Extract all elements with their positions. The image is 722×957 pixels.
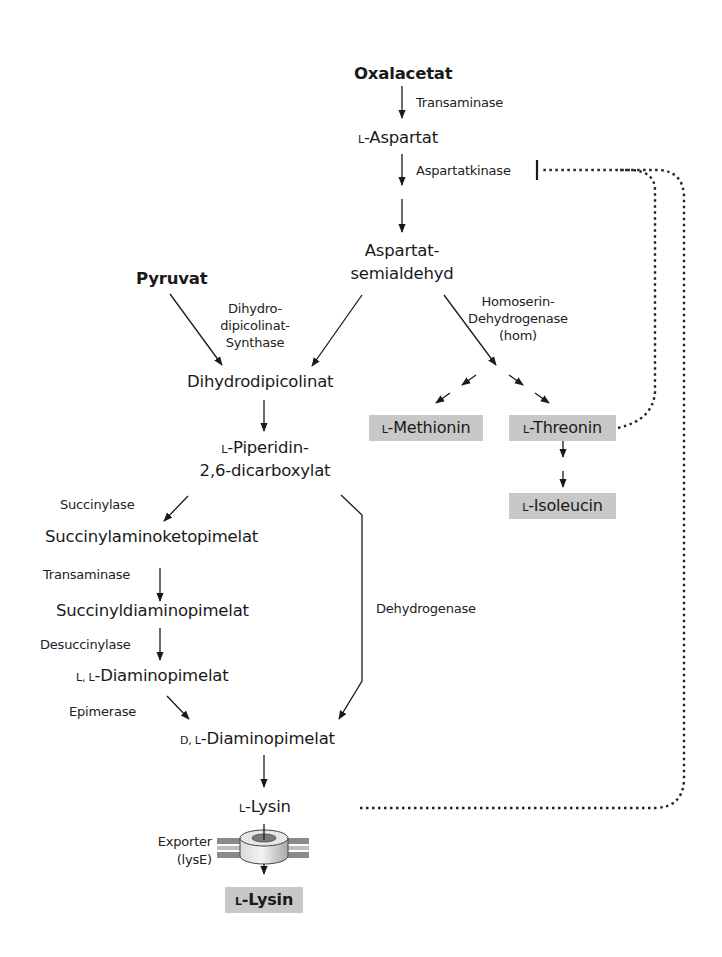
metabolite-l-aspartat: L-Aspartat	[358, 130, 438, 147]
arrow-succinylase	[164, 496, 188, 521]
metabolite-succinyldiaminopimelat: Succinyldiaminopimelat	[56, 603, 249, 620]
metabolite-ll-diaminopimelat: L, L-Diaminopimelat	[76, 668, 228, 685]
arrow-dhdps	[312, 295, 362, 366]
product-box-l-isoleucin: L-Isoleucin	[509, 493, 616, 519]
arrow-dehydrogenase	[339, 495, 362, 719]
metabolite-pyruvat: Pyruvat	[136, 271, 207, 288]
enzyme-dehydrogenase: Dehydrogenase	[376, 602, 476, 615]
enzyme-exporter-lyse: Exporter (lysE)	[140, 833, 212, 869]
metabolite-oxalacetat: Oxalacetat	[354, 66, 452, 83]
arrow-epimerase	[167, 696, 189, 719]
enzyme-dihydrodipicolinat-synthase: Dihydro- dipicolinat- Synthase	[218, 300, 292, 351]
arrow-methionin-1	[462, 375, 476, 385]
enzyme-desuccinylase: Desuccinylase	[40, 638, 131, 651]
enzyme-aspartatkinase: Aspartatkinase	[416, 164, 511, 177]
arrow-threonin-1	[509, 375, 523, 385]
arrow-threonin-2	[535, 393, 549, 403]
enzyme-homoserin-dehydrogenase: Homoserin- Dehydrogenase (hom)	[463, 293, 573, 344]
arrow-pyruvat	[170, 294, 222, 365]
enzyme-epimerase: Epimerase	[69, 705, 136, 718]
enzyme-succinylase: Succinylase	[60, 498, 134, 511]
product-box-l-lysin-exported: L-Lysin	[225, 887, 303, 913]
metabolite-dihydrodipicolinat: Dihydrodipicolinat	[187, 374, 333, 391]
enzyme-transaminase-2: Transaminase	[43, 568, 130, 581]
metabolite-dl-diaminopimelat: D, L-Diaminopimelat	[180, 731, 335, 748]
metabolite-l-piperidin-dicarboxylat: L-Piperidin- 2,6-dicarboxylat	[196, 440, 334, 479]
exporter-lyse-icon	[217, 824, 309, 874]
metabolite-l-lysin: L-Lysin	[239, 799, 291, 816]
metabolite-aspartatsemialdehyd: Aspartat- semialdehyd	[350, 243, 454, 282]
lysine-pathway-diagram: Oxalacetat L-Aspartat Aspartat- semialde…	[0, 0, 722, 957]
product-box-l-threonin: L-Threonin	[509, 415, 616, 441]
enzyme-transaminase: Transaminase	[416, 96, 503, 109]
metabolite-succinylaminoketopimelat: Succinylaminoketopimelat	[45, 529, 258, 546]
arrow-methionin-2	[436, 393, 450, 403]
product-box-l-methionin: L-Methionin	[369, 415, 483, 441]
